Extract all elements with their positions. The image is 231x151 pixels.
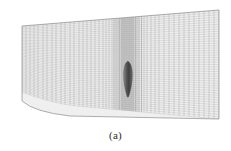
grid-plot-area xyxy=(0,0,231,128)
figure-caption: (a) xyxy=(0,127,231,143)
computational-grid-svg xyxy=(0,0,231,128)
figure-a: (a) xyxy=(0,0,231,151)
